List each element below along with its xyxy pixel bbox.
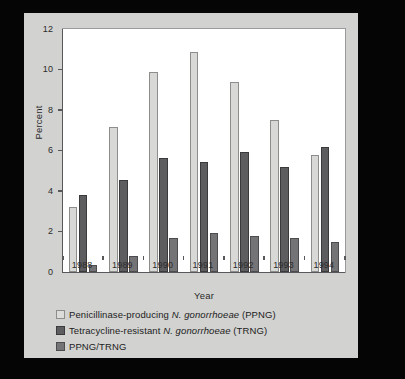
- legend-item: Penicillinase-producing N. gonorrhoeae (…: [56, 307, 352, 322]
- plot-frame-right: [345, 28, 346, 273]
- bar: [311, 155, 320, 272]
- plot-area: [62, 29, 345, 273]
- y-tick-label: 2: [24, 227, 53, 236]
- x-tick-label: 1994: [304, 260, 344, 270]
- x-tick-label: 1992: [223, 260, 263, 270]
- x-tick-label: 1991: [183, 260, 223, 270]
- x-tick-mark: [62, 256, 64, 260]
- y-tick-label: 6: [24, 146, 53, 155]
- legend-swatch-icon: [56, 326, 65, 335]
- bar: [270, 120, 279, 272]
- legend-label: PPNG/TRNG: [69, 341, 126, 352]
- bar: [190, 52, 199, 272]
- x-tick-mark: [143, 256, 145, 260]
- bar: [230, 82, 239, 272]
- x-tick-mark: [304, 256, 306, 260]
- y-tick-label: 8: [24, 106, 53, 115]
- y-tick-label: 0: [24, 268, 53, 277]
- bar: [119, 180, 128, 272]
- bar: [109, 127, 118, 272]
- bar: [240, 152, 249, 272]
- y-tick-label: 12: [24, 25, 53, 34]
- x-tick-label: 1990: [143, 260, 183, 270]
- bar: [149, 72, 158, 272]
- legend-swatch-icon: [56, 310, 65, 319]
- legend-swatch-icon: [56, 342, 65, 351]
- bar: [200, 162, 209, 272]
- y-tick-label: 10: [24, 65, 53, 74]
- chart-panel: Percent 024681012 1988198919901991199219…: [24, 13, 358, 358]
- legend-item: PPNG/TRNG: [56, 339, 352, 354]
- bar: [321, 147, 330, 272]
- x-tick-mark: [344, 256, 346, 260]
- x-tick-label: 1993: [264, 260, 304, 270]
- x-axis-label: Year: [62, 290, 346, 301]
- y-tick-label: 4: [24, 187, 53, 196]
- chart-legend: Penicillinase-producing N. gonorrhoeae (…: [56, 307, 352, 355]
- x-tick-label: 1989: [102, 260, 142, 270]
- x-tick-label: 1988: [62, 260, 102, 270]
- x-tick-mark: [263, 256, 265, 260]
- x-tick-mark: [183, 256, 185, 260]
- x-tick-mark: [223, 256, 225, 260]
- bar: [280, 167, 289, 272]
- legend-label: Tetracycline-resistant N. gonorrhoeae (T…: [69, 325, 267, 336]
- legend-item: Tetracycline-resistant N. gonorrhoeae (T…: [56, 323, 352, 338]
- x-tick-mark: [102, 256, 104, 260]
- figure-container: Percent 024681012 1988198919901991199219…: [0, 0, 405, 379]
- legend-label: Penicillinase-producing N. gonorrhoeae (…: [69, 309, 276, 320]
- bar: [159, 158, 168, 272]
